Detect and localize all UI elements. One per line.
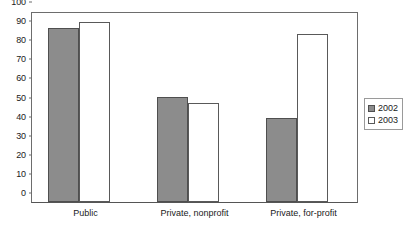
y-axis-tick: 90 (16, 17, 32, 26)
y-axis-tick: 70 (16, 55, 32, 64)
y-axis-tick: 80 (16, 36, 32, 45)
y-axis-tick-label: 90 (16, 17, 29, 26)
bar-chart: 1009080706050403020100 PublicPrivate, no… (0, 0, 411, 238)
y-axis-tick-label: 10 (16, 169, 29, 178)
y-axis-tick: 10 (16, 169, 32, 178)
legend-item-2003: 2003 (368, 114, 398, 126)
bar-2002-2 (266, 118, 297, 202)
x-axis-category-label: Private, nonprofit (135, 208, 255, 219)
y-axis-tick: 0 (21, 189, 32, 198)
x-axis-category-label: Public (26, 208, 146, 219)
legend-item-label: 2002 (378, 104, 398, 113)
legend-swatch-icon (368, 105, 375, 112)
legend-item-2002: 2002 (368, 102, 398, 114)
y-axis-tick-label: 40 (16, 112, 29, 121)
chart-legend: 20022003 (364, 98, 403, 130)
legend-item-label: 2003 (378, 116, 398, 125)
y-axis-tick-label: 70 (16, 55, 29, 64)
y-axis-tick-label: 60 (16, 74, 29, 83)
y-axis-tick-label: 50 (16, 93, 29, 102)
y-axis-tick: 50 (16, 93, 32, 102)
bar-group (32, 13, 359, 202)
y-axis-tick-mark (29, 2, 32, 3)
y-axis-tick-label: 30 (16, 131, 29, 140)
plot-area: 1009080706050403020100 (31, 12, 358, 203)
y-axis-tick-label: 0 (21, 189, 29, 198)
x-axis-category-label: Private, for-profit (244, 208, 364, 219)
y-axis-tick: 30 (16, 131, 32, 140)
bar-2003-2 (297, 34, 328, 202)
y-axis-tick: 60 (16, 74, 32, 83)
y-axis-tick-label: 20 (16, 150, 29, 159)
y-axis-tick: 40 (16, 112, 32, 121)
legend-swatch-icon (368, 117, 375, 124)
y-axis-tick-label: 80 (16, 36, 29, 45)
y-axis-tick: 20 (16, 150, 32, 159)
bars-layer (32, 13, 357, 202)
y-axis-tick-label: 100 (11, 0, 29, 7)
y-axis-tick: 100 (11, 0, 32, 7)
